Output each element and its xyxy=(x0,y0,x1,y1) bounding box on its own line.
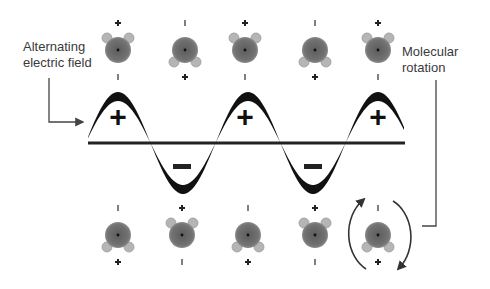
water-molecule xyxy=(166,205,198,265)
atom-center-dot xyxy=(244,49,247,52)
molecular-rotation-label: Molecular rotation xyxy=(402,44,458,76)
positive-charge-icon xyxy=(115,259,121,265)
water-molecule xyxy=(169,20,201,80)
plus-sign: + xyxy=(109,100,127,133)
atom-center-dot xyxy=(247,234,250,237)
positive-charge-icon xyxy=(312,74,318,80)
positive-charge-icon xyxy=(179,205,185,211)
water-molecule xyxy=(299,20,331,80)
atom-center-dot xyxy=(314,234,317,237)
atom-center-dot xyxy=(377,49,380,52)
water-molecule xyxy=(229,20,261,80)
positive-charge-icon xyxy=(375,259,381,265)
positive-charge-icon xyxy=(115,20,121,26)
atom-center-dot xyxy=(181,234,184,237)
bottom-molecule-row xyxy=(102,205,394,265)
water-molecule xyxy=(362,205,394,265)
atom-center-dot xyxy=(117,49,120,52)
positive-charge-icon xyxy=(375,20,381,26)
plus-sign: + xyxy=(236,100,254,133)
positive-charge-icon xyxy=(182,74,188,80)
alternating-field-label: Alternating electric field xyxy=(23,39,92,71)
top-molecule-row xyxy=(102,20,394,80)
atom-center-dot xyxy=(117,234,120,237)
water-molecule xyxy=(232,205,264,265)
positive-charge-icon xyxy=(242,20,248,26)
atom-center-dot xyxy=(377,234,380,237)
positive-charge-icon xyxy=(245,259,251,265)
alternating-field-wave: +++ xyxy=(88,92,405,194)
atom-center-dot xyxy=(314,49,317,52)
water-molecule xyxy=(102,205,134,265)
field-leader-line xyxy=(49,78,83,122)
minus-sign xyxy=(304,164,322,169)
water-molecule xyxy=(299,205,331,265)
atom-center-dot xyxy=(184,49,187,52)
minus-sign xyxy=(173,164,191,169)
rotation-leader-line xyxy=(422,80,436,226)
positive-charge-icon xyxy=(312,205,318,211)
plus-sign: + xyxy=(369,100,387,133)
water-molecule xyxy=(102,20,134,80)
water-molecule xyxy=(362,20,394,80)
